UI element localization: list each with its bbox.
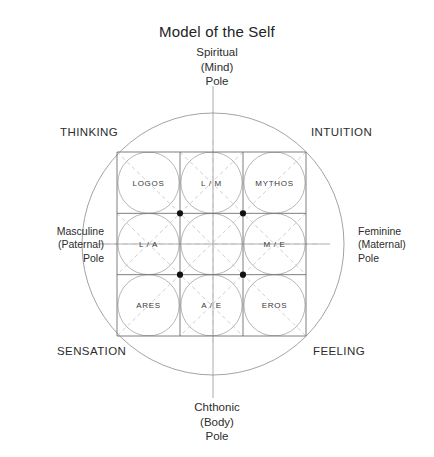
cell-label-eros: EROS xyxy=(243,301,306,310)
function-label-sensation: SENSATION xyxy=(57,344,126,359)
cell-label-me: M / E xyxy=(243,240,306,249)
cell-label-mythos: MYTHOS xyxy=(243,178,306,187)
cell-label-logos: LOGOS xyxy=(117,178,180,187)
pole-label-spiritual: Spiritual (Mind) Pole xyxy=(0,45,434,89)
pole-label-masculine: Masculine (Paternal) Pole xyxy=(8,225,104,265)
pole-label-feminine: Feminine (Maternal) Pole xyxy=(358,225,434,265)
pole-label-chthonic: Chthonic (Body) Pole xyxy=(0,400,434,444)
intersection-dot xyxy=(240,272,246,278)
page-title: Model of the Self xyxy=(0,22,434,41)
function-label-feeling: FEELING xyxy=(313,344,365,359)
function-label-thinking: THINKING xyxy=(60,125,118,140)
cell-label-lm: L / M xyxy=(180,178,243,187)
cell-label-ares: ARES xyxy=(117,301,180,310)
cell-label-la: L / A xyxy=(117,240,180,249)
function-label-intuition: INTUITION xyxy=(311,125,372,140)
intersection-dot xyxy=(240,210,246,216)
intersection-dot xyxy=(177,210,183,216)
cell-label-ae: A / E xyxy=(180,301,243,310)
model-of-the-self-diagram: Model of the Self Spiritual (Mind) Pole … xyxy=(0,0,434,457)
intersection-dot xyxy=(177,272,183,278)
